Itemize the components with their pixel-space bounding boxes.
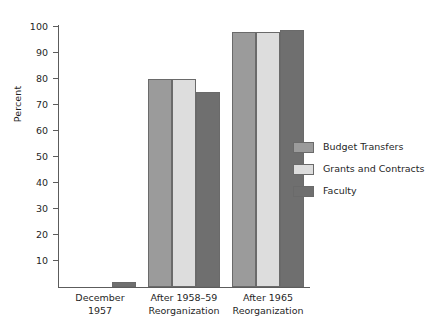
y-axis-tick: 10	[0, 255, 58, 267]
x-axis-group-label: After 1965 Reorganization	[213, 292, 323, 317]
y-axis-tick: 50	[0, 151, 58, 163]
y-axis-tick: 20	[0, 229, 58, 241]
legend-item: Budget Transfers	[293, 139, 425, 155]
y-axis-tick-label: 40	[36, 177, 48, 189]
x-axis-line	[58, 287, 310, 288]
y-axis-tick-label: 100	[30, 21, 48, 33]
legend-item-label: Grants and Contracts	[323, 163, 425, 175]
bar	[256, 32, 280, 287]
bar	[196, 92, 220, 287]
chart-legend: Budget TransfersGrants and ContractsFacu…	[293, 139, 425, 205]
bar	[148, 79, 172, 287]
y-axis-tick: 60	[0, 125, 58, 137]
y-axis-tick-label: 10	[36, 255, 48, 267]
y-axis-tick-label: 70	[36, 99, 48, 111]
bar	[232, 32, 256, 287]
y-axis-tick-label: 50	[36, 151, 48, 163]
y-axis-tick: 90	[0, 47, 58, 59]
y-axis-tick: 80	[0, 73, 58, 85]
bar-chart: Percent 100908070605040302010 December 1…	[0, 0, 430, 330]
legend-swatch-icon	[293, 186, 314, 197]
legend-item-label: Budget Transfers	[323, 141, 403, 153]
legend-item-label: Faculty	[323, 185, 357, 197]
y-axis-tick-label: 20	[36, 229, 48, 241]
bar	[172, 79, 196, 287]
y-axis-tick: 40	[0, 177, 58, 189]
legend-item: Grants and Contracts	[293, 161, 425, 177]
y-axis-tick-label: 90	[36, 47, 48, 59]
legend-swatch-icon	[293, 142, 314, 153]
y-axis-tick-label: 60	[36, 125, 48, 137]
y-axis-tick-label: 80	[36, 73, 48, 85]
y-axis-tick-label: 30	[36, 203, 48, 215]
y-axis-tick: 70	[0, 99, 58, 111]
y-axis-tick: 100	[0, 21, 58, 33]
legend-swatch-icon	[293, 164, 314, 175]
bar	[112, 282, 136, 287]
y-axis-tick: 30	[0, 203, 58, 215]
legend-item: Faculty	[293, 183, 425, 199]
bars-layer	[58, 24, 310, 287]
